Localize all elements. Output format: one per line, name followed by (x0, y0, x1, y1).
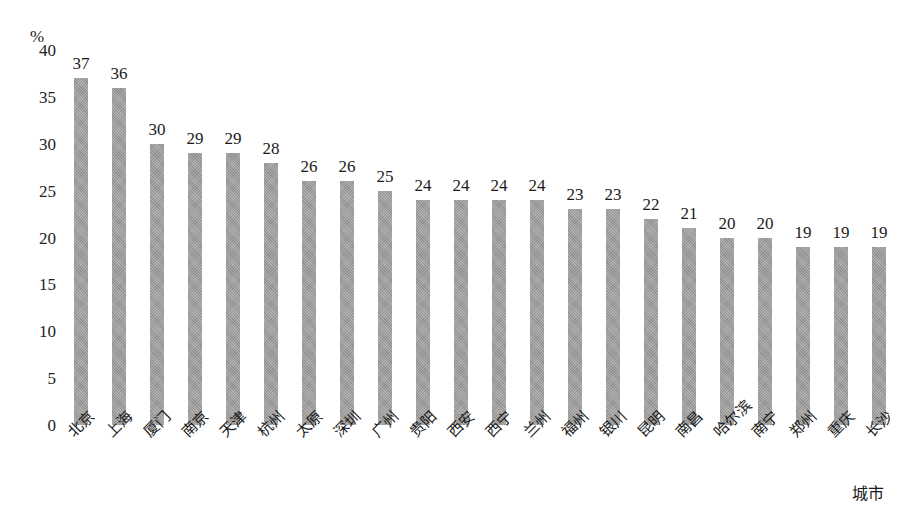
bar (302, 181, 316, 425)
bar-slot: 19 (860, 50, 898, 425)
bar (378, 191, 392, 425)
bar-slot: 19 (822, 50, 860, 425)
bar-slot: 26 (290, 50, 328, 425)
x-axis-title: 城市 (852, 486, 884, 502)
bar-slot: 24 (404, 50, 442, 425)
bar-slot: 20 (708, 50, 746, 425)
bar (644, 219, 658, 425)
bar (74, 78, 88, 425)
bar-slot: 29 (176, 50, 214, 425)
bar-value-label: 28 (263, 140, 280, 157)
bar (530, 200, 544, 425)
y-axis-tick-label: 25 (18, 182, 56, 199)
bar-value-label: 24 (491, 177, 508, 194)
y-axis-tick-label: 5 (18, 370, 56, 387)
bar (872, 247, 886, 425)
bar (416, 200, 430, 425)
bar (150, 144, 164, 425)
bar-slot: 37 (62, 50, 100, 425)
bar-value-label: 23 (567, 186, 584, 203)
bar (606, 209, 620, 425)
bar-value-label: 22 (643, 196, 660, 213)
bar-slot: 22 (632, 50, 670, 425)
bar-value-label: 19 (871, 224, 888, 241)
y-axis-tick-label: 10 (18, 323, 56, 340)
y-axis-tick-label: 0 (18, 417, 56, 434)
bar (568, 209, 582, 425)
plot-area: 3736302929282626252424242423232221202019… (62, 50, 902, 425)
bar-slot: 21 (670, 50, 708, 425)
bar-value-label: 37 (73, 55, 90, 72)
bar-slot: 24 (480, 50, 518, 425)
bar (720, 238, 734, 426)
bar (340, 181, 354, 425)
bar-value-label: 25 (377, 168, 394, 185)
bar (454, 200, 468, 425)
bar-slot: 24 (518, 50, 556, 425)
bar-value-label: 30 (149, 121, 166, 138)
bar (796, 247, 810, 425)
bar-slot: 23 (594, 50, 632, 425)
bar-chart: % 0510152025303540 373630292928262625242… (0, 0, 918, 526)
bar-value-label: 36 (111, 65, 128, 82)
bar (188, 153, 202, 425)
bar-slot: 23 (556, 50, 594, 425)
bar-value-label: 20 (719, 215, 736, 232)
bar-value-label: 26 (339, 158, 356, 175)
bar-value-label: 23 (605, 186, 622, 203)
y-axis-tick-label: 15 (18, 276, 56, 293)
bar-value-label: 24 (415, 177, 432, 194)
bar-value-label: 29 (225, 130, 242, 147)
bar-slot: 29 (214, 50, 252, 425)
bar-slot: 28 (252, 50, 290, 425)
bar-value-label: 24 (529, 177, 546, 194)
bar (682, 228, 696, 425)
bar-value-label: 19 (795, 224, 812, 241)
bar (492, 200, 506, 425)
bar (264, 163, 278, 426)
bar-value-label: 20 (757, 215, 774, 232)
bar-slot: 24 (442, 50, 480, 425)
bar-slot: 25 (366, 50, 404, 425)
bar (112, 88, 126, 426)
bar-slot: 36 (100, 50, 138, 425)
bar-slot: 30 (138, 50, 176, 425)
bar (834, 247, 848, 425)
bar-value-label: 29 (187, 130, 204, 147)
bar-value-label: 21 (681, 205, 698, 222)
bar-value-label: 24 (453, 177, 470, 194)
bar-slot: 19 (784, 50, 822, 425)
bar (226, 153, 240, 425)
bar-slot: 26 (328, 50, 366, 425)
y-axis-tick-label: 20 (18, 229, 56, 246)
bar-value-label: 26 (301, 158, 318, 175)
y-axis-tick-label: 40 (18, 42, 56, 59)
y-axis-tick-label: 35 (18, 88, 56, 105)
bar-value-label: 19 (833, 224, 850, 241)
bar-slot: 20 (746, 50, 784, 425)
bar (758, 238, 772, 426)
y-axis-tick-label: 30 (18, 135, 56, 152)
